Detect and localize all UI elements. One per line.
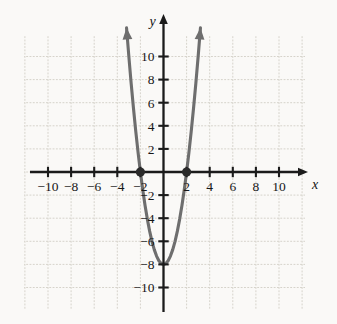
- y-tick-label: 10: [141, 49, 155, 64]
- x-intercept-right: [182, 167, 191, 176]
- graph-figure: c. −10−8−6−4−224681: [0, 0, 337, 324]
- y-tick-label: 2: [148, 142, 155, 157]
- x-tick-label: −4: [110, 179, 125, 194]
- y-tick-label: 6: [148, 96, 155, 111]
- x-tick-label: 4: [206, 179, 213, 194]
- y-tick-label: −6: [140, 234, 155, 249]
- x-axis-label: x: [311, 177, 319, 192]
- y-tick-label: −10: [133, 280, 154, 295]
- x-tick-label: 6: [229, 179, 236, 194]
- x-tick-label: 10: [272, 179, 286, 194]
- y-tick-label: −8: [140, 257, 155, 272]
- x-tick-label: 8: [253, 179, 260, 194]
- y-tick-label: −2: [140, 188, 154, 203]
- figure-background: [0, 0, 337, 324]
- x-tick-label: −8: [64, 179, 79, 194]
- y-tick-label: 4: [148, 119, 155, 134]
- x-tick-label: −6: [87, 179, 102, 194]
- y-tick-label: −4: [140, 211, 155, 226]
- x-intercept-left: [136, 167, 145, 176]
- y-tick-label: 8: [148, 72, 155, 87]
- coordinate-plane: −10−8−6−4−2246810 −10−8−6−4−2246810 x y: [0, 0, 337, 324]
- x-tick-label: 2: [183, 179, 190, 194]
- y-axis-label: y: [147, 14, 156, 29]
- x-tick-label: −10: [37, 179, 58, 194]
